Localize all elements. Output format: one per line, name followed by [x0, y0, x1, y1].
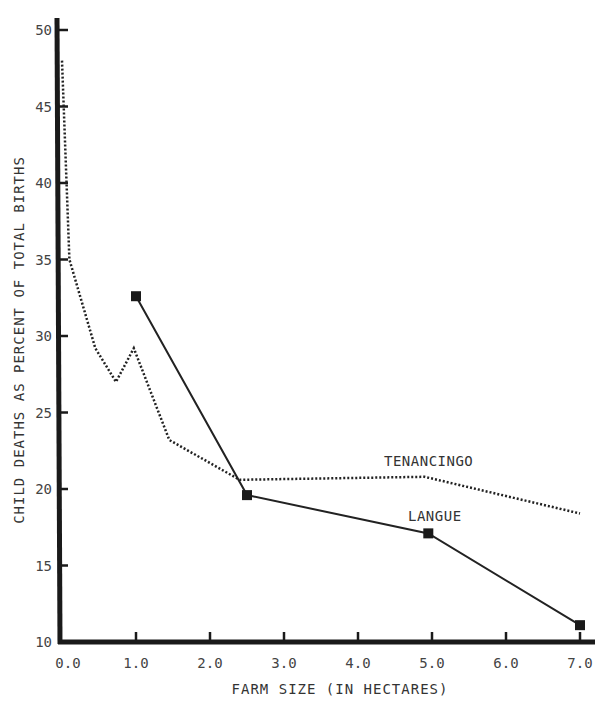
- langue-line: [136, 296, 580, 625]
- x-axis-title: FARM SIZE (IN HECTARES): [232, 681, 449, 697]
- y-tick-label: 10: [35, 634, 52, 650]
- tenancingo-label: TENANCINGO: [384, 453, 473, 469]
- y-tick-label: 30: [35, 328, 52, 344]
- x-tick-label: 4.0: [345, 655, 370, 671]
- x-axis-tick-labels: 0.01.02.03.04.05.06.07.0: [55, 655, 592, 671]
- axis-ticks: [58, 30, 580, 642]
- y-tick-label: 40: [35, 175, 52, 191]
- y-tick-label: 25: [35, 405, 52, 421]
- y-tick-label: 15: [35, 558, 52, 574]
- langue-marker: [423, 528, 433, 538]
- x-tick-label: 1.0: [123, 655, 148, 671]
- y-axis-title: CHILD DEATHS AS PERCENT OF TOTAL BIRTHS: [11, 156, 27, 524]
- x-tick-label: 6.0: [493, 655, 518, 671]
- series-layer: [62, 61, 585, 631]
- y-axis-tick-labels: 101520253035404550: [35, 22, 52, 650]
- langue-marker: [242, 490, 252, 500]
- y-tick-label: 35: [35, 252, 52, 268]
- y-tick-label: 20: [35, 481, 52, 497]
- x-tick-label: 3.0: [271, 655, 296, 671]
- x-tick-label: 5.0: [419, 655, 444, 671]
- x-tick-label: 0.0: [55, 655, 80, 671]
- tenancingo-line: [62, 61, 580, 514]
- y-tick-label: 45: [35, 99, 52, 115]
- y-axis-line: [57, 18, 60, 644]
- x-tick-label: 7.0: [567, 655, 592, 671]
- langue-marker: [131, 291, 141, 301]
- langue-label: LANGUE: [408, 508, 462, 524]
- langue-marker: [575, 620, 585, 630]
- line-chart: 101520253035404550 0.01.02.03.04.05.06.0…: [0, 0, 602, 706]
- x-tick-label: 2.0: [197, 655, 222, 671]
- y-tick-label: 50: [35, 22, 52, 38]
